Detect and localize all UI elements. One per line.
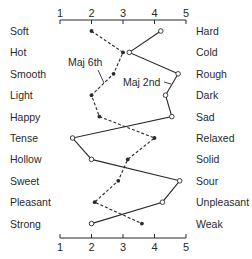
left-label: Light — [10, 89, 33, 101]
bottom-axis-tick-label: 1 — [57, 241, 63, 253]
right-label: Unpleasant — [196, 196, 249, 208]
data-point-open — [89, 221, 94, 226]
left-label: Pleasant — [10, 196, 51, 208]
right-adjective-labels: HardColdRoughDarkSadRelaxedSolidSourUnpl… — [196, 25, 249, 230]
data-point-open — [127, 50, 132, 55]
top-axis-tick-label: 5 — [183, 7, 189, 19]
left-label: Soft — [10, 25, 29, 37]
left-label: Tense — [10, 132, 38, 144]
data-point-open — [163, 93, 168, 98]
right-label: Hard — [196, 25, 219, 37]
right-label: Cold — [196, 46, 218, 58]
annotation-maj-6th-arrow — [98, 70, 104, 83]
data-point-filled — [126, 158, 130, 162]
left-label: Hot — [10, 46, 26, 58]
data-point-filled — [153, 136, 157, 140]
top-axis-tick-label: 3 — [120, 7, 126, 19]
data-point-filled — [97, 115, 101, 119]
data-point-open — [177, 179, 182, 184]
data-point-open — [176, 72, 181, 77]
right-label: Solid — [196, 153, 220, 165]
semantic-differential-chart: 12345 12345 SoftHotSmoothLightHappyTense… — [0, 0, 252, 259]
bottom-axis-tick-label: 4 — [151, 241, 157, 253]
bottom-axis-tick-label: 3 — [120, 241, 126, 253]
data-point-open — [89, 157, 94, 162]
top-axis-tick-label: 1 — [57, 7, 63, 19]
bottom-axis-tick-label: 5 — [183, 241, 189, 253]
data-point-filled — [140, 222, 144, 226]
data-point-open — [160, 200, 165, 205]
data-point-open — [159, 29, 164, 34]
data-point-filled — [90, 29, 94, 33]
data-point-filled — [90, 93, 94, 97]
data-point-filled — [112, 72, 116, 76]
left-label: Happy — [10, 111, 41, 123]
right-label: Dark — [196, 89, 219, 101]
right-label: Weak — [196, 218, 223, 230]
left-label: Sweet — [10, 175, 39, 187]
right-label: Sad — [196, 111, 215, 123]
left-label: Strong — [10, 218, 41, 230]
bottom-axis: 12345 — [57, 234, 189, 253]
top-axis-tick-label: 2 — [88, 7, 94, 19]
data-point-open — [170, 114, 175, 119]
left-label: Smooth — [10, 68, 46, 80]
data-point-filled — [93, 200, 97, 204]
left-label: Hollow — [10, 153, 42, 165]
annotation-maj-2nd: Maj 2nd — [123, 76, 161, 88]
annotation-maj-6th: Maj 6th — [68, 56, 103, 68]
data-point-filled — [121, 51, 125, 55]
data-point-open — [70, 136, 75, 141]
top-axis: 12345 — [57, 7, 189, 24]
bottom-axis-tick-label: 2 — [88, 241, 94, 253]
data-point-filled — [116, 179, 120, 183]
right-label: Sour — [196, 175, 219, 187]
right-label: Relaxed — [196, 132, 235, 144]
left-adjective-labels: SoftHotSmoothLightHappyTenseHollowSweetP… — [10, 25, 51, 230]
right-label: Rough — [196, 68, 227, 80]
annotation-maj-2nd-arrow — [164, 82, 171, 84]
top-axis-tick-label: 4 — [151, 7, 157, 19]
